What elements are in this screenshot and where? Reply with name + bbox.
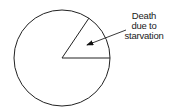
annotation-line-3: starvation — [118, 31, 170, 41]
annotation-label: Death due to starvation — [118, 11, 170, 41]
